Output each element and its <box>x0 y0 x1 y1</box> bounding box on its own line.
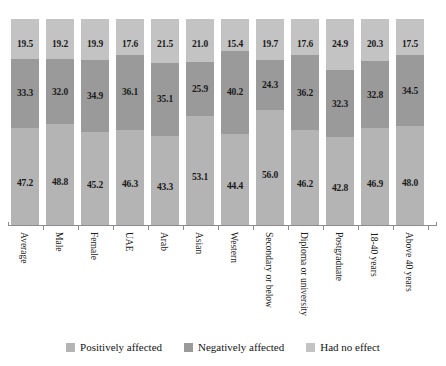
bar-segment[interactable]: 19.5 <box>11 19 39 59</box>
bar-value-label: 34.5 <box>396 86 424 96</box>
bar-segment[interactable]: 19.7 <box>256 19 284 60</box>
bar-value-label: 20.3 <box>361 39 389 49</box>
bar-segment[interactable]: 24.9 <box>326 19 354 70</box>
bar-column: 17.636.246.2 <box>291 19 319 225</box>
bar-segment[interactable]: 46.9 <box>361 128 389 225</box>
stacked-bar-chart: 19.533.347.219.232.048.819.934.945.217.6… <box>0 0 446 366</box>
x-axis-category-label: Above 40 years <box>403 232 415 352</box>
bar-value-label: 17.5 <box>396 39 424 49</box>
bar-column: 19.934.945.2 <box>81 19 109 225</box>
bar-segment[interactable]: 17.6 <box>116 19 144 55</box>
bar-value-label: 45.2 <box>81 180 109 190</box>
bar-segment[interactable]: 46.2 <box>291 130 319 225</box>
bar-value-label: 17.6 <box>116 39 144 49</box>
bar-segment[interactable]: 20.3 <box>361 19 389 61</box>
bar-segment[interactable]: 21.0 <box>186 19 214 62</box>
bar-value-label: 19.7 <box>256 39 284 49</box>
x-axis-category-label: Male <box>53 232 65 352</box>
bar-column: 20.332.846.9 <box>361 19 389 225</box>
bar-segment[interactable]: 21.5 <box>151 19 179 63</box>
bar-segment[interactable]: 35.1 <box>151 63 179 135</box>
x-axis-tick <box>43 226 44 230</box>
bar-value-label: 32.0 <box>46 87 74 97</box>
bar-segment[interactable]: 32.8 <box>361 61 389 129</box>
bar-segment[interactable]: 48.0 <box>396 126 424 225</box>
bar-segment[interactable]: 40.2 <box>221 51 249 134</box>
bar-column: 21.535.143.3 <box>151 19 179 225</box>
bar-segment[interactable]: 24.3 <box>256 60 284 110</box>
bar-value-label: 19.2 <box>46 39 74 49</box>
stacked-bar[interactable]: 24.932.342.8 <box>326 19 354 225</box>
x-axis-tick <box>113 226 114 230</box>
bar-segment[interactable]: 33.3 <box>11 59 39 128</box>
bar-segment[interactable]: 25.9 <box>186 62 214 115</box>
stacked-bar[interactable]: 19.934.945.2 <box>81 19 109 225</box>
bar-segment[interactable]: 17.6 <box>291 19 319 55</box>
bar-segment[interactable]: 32.3 <box>326 70 354 137</box>
bar-column: 17.636.146.3 <box>116 19 144 225</box>
bar-value-label: 43.3 <box>151 182 179 192</box>
x-axis-category-label: Asian <box>193 232 205 352</box>
bar-column: 19.533.347.2 <box>11 19 39 225</box>
bar-segment[interactable]: 32.0 <box>46 59 74 125</box>
bar-value-label: 36.2 <box>291 88 319 98</box>
bar-segment[interactable]: 15.4 <box>221 19 249 51</box>
legend-swatch-icon <box>184 343 193 352</box>
stacked-bar[interactable]: 17.636.146.3 <box>116 19 144 225</box>
bar-segment[interactable]: 45.2 <box>81 132 109 225</box>
bar-value-label: 46.9 <box>361 179 389 189</box>
x-axis-tick <box>288 226 289 230</box>
stacked-bar[interactable]: 19.533.347.2 <box>11 19 39 225</box>
bar-value-label: 35.1 <box>151 94 179 104</box>
bar-value-label: 32.3 <box>326 99 354 109</box>
x-axis-category-label: Average <box>18 232 30 352</box>
bar-segment[interactable]: 36.2 <box>291 55 319 130</box>
x-axis-category-label: Arab <box>158 232 170 352</box>
bar-segment[interactable]: 44.4 <box>221 134 249 225</box>
bar-segment[interactable]: 36.1 <box>116 55 144 129</box>
bar-value-label: 48.8 <box>46 177 74 187</box>
bar-value-label: 33.3 <box>11 88 39 98</box>
bar-segment[interactable]: 19.9 <box>81 19 109 60</box>
bar-value-label: 46.2 <box>291 179 319 189</box>
x-axis-tick <box>218 226 219 230</box>
bar-segment[interactable]: 19.2 <box>46 19 74 59</box>
stacked-bar[interactable]: 17.636.246.2 <box>291 19 319 225</box>
bar-value-label: 24.9 <box>326 39 354 49</box>
plot-area: 19.533.347.219.232.048.819.934.945.217.6… <box>11 19 435 225</box>
stacked-bar[interactable]: 17.534.548.0 <box>396 19 424 225</box>
bar-segment[interactable]: 17.5 <box>396 19 424 55</box>
bar-value-label: 47.2 <box>11 178 39 188</box>
stacked-bar[interactable]: 19.724.356.0 <box>256 19 284 225</box>
bar-segment[interactable]: 46.3 <box>116 130 144 225</box>
bar-column: 24.932.342.8 <box>326 19 354 225</box>
stacked-bar[interactable]: 21.025.953.1 <box>186 19 214 225</box>
x-axis-tick <box>393 226 394 230</box>
bar-segment[interactable]: 43.3 <box>151 136 179 225</box>
bar-segment[interactable]: 48.8 <box>46 124 74 225</box>
bar-segment[interactable]: 34.5 <box>396 55 424 126</box>
bar-segment[interactable]: 42.8 <box>326 137 354 225</box>
bar-segment[interactable]: 56.0 <box>256 110 284 225</box>
stacked-bar[interactable]: 15.440.244.4 <box>221 19 249 225</box>
bar-value-label: 48.0 <box>396 178 424 188</box>
bar-column: 19.232.048.8 <box>46 19 74 225</box>
bar-segment[interactable]: 53.1 <box>186 116 214 225</box>
bar-value-label: 42.8 <box>326 183 354 193</box>
x-axis-category-label: Postgraduate <box>333 232 345 352</box>
stacked-bar[interactable]: 21.535.143.3 <box>151 19 179 225</box>
bar-segment[interactable]: 47.2 <box>11 128 39 225</box>
x-axis-category-label: 18-40 years <box>368 232 380 352</box>
legend-swatch-icon <box>66 343 75 352</box>
bar-segment[interactable]: 34.9 <box>81 60 109 132</box>
bar-value-label: 21.0 <box>186 39 214 49</box>
stacked-bar[interactable]: 19.232.048.8 <box>46 19 74 225</box>
stacked-bar[interactable]: 20.332.846.9 <box>361 19 389 225</box>
x-axis-line <box>8 225 437 226</box>
bar-value-label: 19.9 <box>81 39 109 49</box>
bar-value-label: 34.9 <box>81 91 109 101</box>
bar-value-label: 17.6 <box>291 39 319 49</box>
legend-item[interactable]: Positively affected <box>66 341 162 353</box>
x-axis-category-label: Western <box>228 232 240 352</box>
bar-value-label: 46.3 <box>116 179 144 189</box>
